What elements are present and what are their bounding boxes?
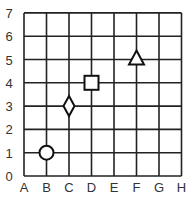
square-marker	[85, 76, 99, 90]
y-axis-label: 5	[5, 53, 12, 68]
x-axis-label: D	[87, 180, 96, 195]
coordinate-grid: ABCDEFGH 01234567	[0, 0, 194, 199]
x-axis-label: B	[42, 180, 51, 195]
y-axis-label: 1	[5, 146, 12, 161]
x-axis-label: C	[64, 180, 73, 195]
x-axis-label: F	[133, 180, 141, 195]
y-axis-label: 2	[5, 122, 12, 137]
y-axis-label: 4	[5, 76, 12, 91]
y-axis-label: 7	[5, 6, 12, 21]
x-axis-label: H	[177, 180, 186, 195]
circle-marker	[40, 146, 54, 160]
x-axis-label: G	[154, 180, 164, 195]
diamond-marker	[64, 96, 75, 116]
x-axis-label: A	[20, 180, 29, 195]
y-axis-labels: 01234567	[5, 6, 12, 184]
x-axis-label: E	[110, 180, 119, 195]
y-axis-label: 0	[5, 169, 12, 184]
triangle-marker	[129, 51, 144, 65]
y-axis-label: 3	[5, 99, 12, 114]
y-axis-label: 6	[5, 29, 12, 44]
x-axis-labels: ABCDEFGH	[20, 180, 187, 195]
